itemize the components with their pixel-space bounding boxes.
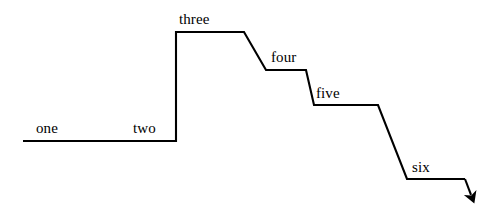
label-three: three <box>179 12 209 27</box>
label-one: one <box>36 121 58 136</box>
step-line-graphic <box>0 0 502 216</box>
step-diagram-canvas: one two three four five six <box>0 0 502 216</box>
label-four: four <box>271 50 296 65</box>
step-polyline <box>23 32 465 179</box>
label-five: five <box>316 86 340 101</box>
label-six: six <box>412 160 430 175</box>
label-two: two <box>133 121 156 136</box>
arrow-tail-segment <box>465 179 471 195</box>
step-polyline-group <box>23 32 471 195</box>
